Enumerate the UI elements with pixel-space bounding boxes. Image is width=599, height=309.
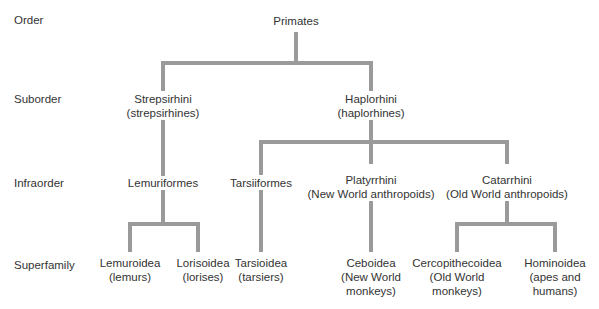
node-cercopithecoidea: Cercopithecoidea (Old World monkeys): [410, 256, 504, 298]
node-tarsioidea: Tarsioidea (tarsiers): [233, 256, 289, 284]
node-tarsiiformes: Tarsiiformes: [228, 176, 294, 190]
node-name: Primates: [273, 15, 318, 27]
rank-label-order: Order: [14, 14, 43, 26]
connector-strepsirhini-bottom: [161, 120, 165, 176]
connector-haplorhini-top: [369, 61, 373, 91]
node-name: Platyrrhini: [308, 173, 435, 187]
connector-platyrrhini-top: [369, 140, 373, 164]
connector-suborder-bar: [161, 61, 373, 65]
node-primates: Primates: [271, 14, 320, 28]
node-common-name: (strepsirhines): [127, 106, 200, 120]
node-common-name: (apes and: [524, 270, 585, 284]
node-common-name: (New World: [341, 270, 401, 284]
connector-strepsirhini-top: [161, 61, 165, 91]
node-lorisoidea: Lorisoidea (lorises): [174, 256, 231, 284]
connector-lemur-bar: [128, 222, 200, 226]
connector-tarsiiformes-top: [259, 140, 263, 175]
connector-tarsioidea: [259, 190, 263, 252]
node-name: Tarsioidea: [235, 256, 287, 270]
node-name: Catarrhini: [446, 173, 568, 187]
node-common-name: (New World anthropoids): [308, 187, 435, 201]
node-name: Strepsirhini: [127, 92, 200, 106]
node-common-name: (lemurs): [100, 270, 161, 284]
connector-cercopithecoidea: [455, 222, 459, 252]
node-ceboidea: Ceboidea (New World monkeys): [339, 256, 403, 298]
rank-label-suborder: Suborder: [14, 93, 61, 105]
node-haplorhini: Haplorhini (haplorhines): [335, 92, 406, 120]
node-common-name: (Old World anthropoids): [446, 187, 568, 201]
node-name: Tarsiiformes: [230, 177, 292, 189]
node-name: Hominoidea: [524, 256, 585, 270]
connector-lorisoidea: [196, 222, 200, 252]
node-platyrrhini: Platyrrhini (New World anthropoids): [306, 173, 437, 201]
connector-catarrhini-bar: [455, 222, 557, 226]
node-common-name: monkeys): [412, 284, 502, 298]
node-hominoidea: Hominoidea (apes and humans): [522, 256, 587, 298]
node-catarrhini: Catarrhini (Old World anthropoids): [444, 173, 570, 201]
node-name: Cercopithecoidea: [412, 256, 502, 270]
node-common-name: (Old World: [412, 270, 502, 284]
connector-lemuriformes-bottom: [161, 190, 165, 226]
node-name: Lorisoidea: [176, 256, 229, 270]
node-name: Ceboidea: [341, 256, 401, 270]
connector-catarrhini-top: [505, 140, 509, 164]
connector-lemuroidea: [128, 222, 132, 252]
connector-hominoidea: [553, 222, 557, 252]
node-name: Lemuriformes: [128, 177, 198, 189]
node-name: Lemuroidea: [100, 256, 161, 270]
node-common-name: monkeys): [341, 284, 401, 298]
connector-infraorder-bar: [259, 140, 509, 144]
rank-label-infraorder: Infraorder: [14, 177, 64, 189]
connector-ceboidea: [369, 201, 373, 252]
node-strepsirhini: Strepsirhini (strepsirhines): [125, 92, 202, 120]
node-lemuroidea: Lemuroidea (lemurs): [98, 256, 163, 284]
node-common-name: (tarsiers): [235, 270, 287, 284]
node-common-name: humans): [524, 284, 585, 298]
node-common-name: (haplorhines): [337, 106, 404, 120]
rank-label-superfamily: Superfamily: [14, 259, 75, 271]
node-name: Haplorhini: [337, 92, 404, 106]
node-lemuriformes: Lemuriformes: [126, 176, 200, 190]
node-common-name: (lorises): [176, 270, 229, 284]
